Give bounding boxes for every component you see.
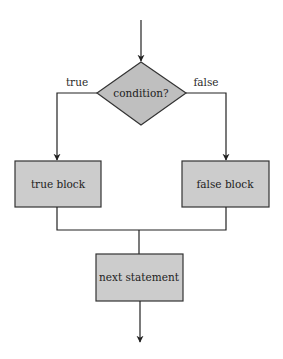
false-branch-edge: false <box>186 76 226 160</box>
flowchart-diagram: condition? true false true block false b… <box>0 0 283 359</box>
false-merge-edge <box>139 207 226 230</box>
false-block-node: false block <box>182 161 269 207</box>
false-branch-label: false <box>193 76 218 88</box>
false-block-label: false block <box>196 178 254 190</box>
condition-node: condition? <box>97 62 186 125</box>
true-block-label: true block <box>31 178 86 190</box>
condition-label: condition? <box>113 87 169 99</box>
true-merge-edge <box>57 207 139 230</box>
next-statement-node: next statement <box>96 254 183 301</box>
true-branch-edge: true <box>57 76 97 160</box>
next-statement-label: next statement <box>99 271 180 283</box>
true-block-node: true block <box>15 161 101 207</box>
true-branch-label: true <box>66 76 88 88</box>
